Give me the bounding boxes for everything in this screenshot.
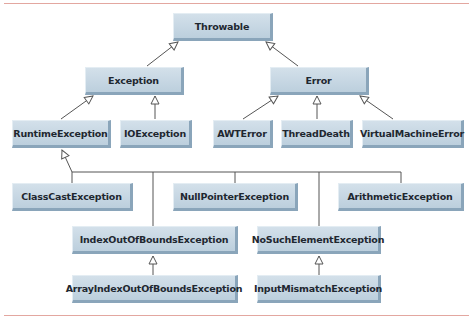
edge-error-throwable	[266, 42, 298, 66]
class-node-throwable: Throwable	[173, 13, 273, 41]
edge-exception-throwable	[147, 42, 178, 66]
class-node-runtime: RuntimeException	[12, 120, 111, 148]
edge-vm-error	[360, 96, 393, 119]
class-node-indexoob: IndexOutOfBoundsException	[72, 226, 238, 254]
class-node-arithmetic: ArithmeticException	[338, 183, 464, 211]
class-node-vmerror: VirtualMachineError	[362, 120, 464, 148]
inheritance-edges	[0, 0, 473, 320]
class-node-exception: Exception	[85, 67, 184, 95]
class-node-error: Error	[270, 67, 369, 95]
class-node-arrayindexoob: ArrayIndexOutOfBoundsException	[72, 275, 238, 303]
class-node-classcast: ClassCastException	[12, 183, 133, 211]
class-node-ioexception: IOException	[120, 120, 192, 148]
class-node-awterror: AWTError	[213, 120, 273, 148]
edge-awt-error	[243, 96, 278, 119]
edge-bus-runtime	[62, 150, 72, 172]
class-node-nullpointer: NullPointerException	[173, 183, 298, 211]
edge-runtime-exception	[61, 96, 93, 119]
class-node-nosuchelement: NoSuchElementException	[257, 226, 381, 254]
class-node-inputmismatch: InputMismatchException	[257, 275, 381, 303]
class-node-threaddeath: ThreadDeath	[281, 120, 353, 148]
